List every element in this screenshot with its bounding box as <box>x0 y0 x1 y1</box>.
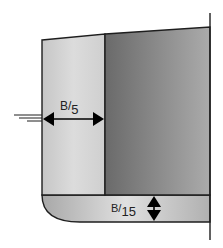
waterline-icon <box>14 115 42 121</box>
cargo-hold <box>105 27 210 195</box>
hull-section-diagram: B/5 B/15 <box>0 0 223 248</box>
